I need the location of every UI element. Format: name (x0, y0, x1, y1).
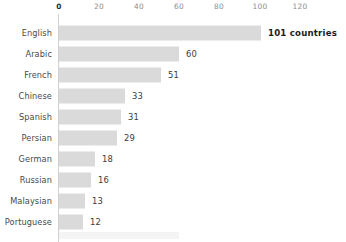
table-row: French 51 (0, 64, 346, 85)
category-label-portuguese: Portuguese (5, 217, 52, 227)
category-label-french: French (24, 70, 52, 80)
bar-persian (59, 130, 117, 145)
table-row: Malaysian 13 (0, 190, 346, 211)
bar-french (59, 67, 161, 82)
bar-russian (59, 172, 91, 187)
value-label-russian: 16 (98, 175, 109, 185)
value-label-portuguese: 12 (90, 217, 101, 227)
value-label-english: 101 countries (268, 28, 337, 38)
category-label-russian: Russian (20, 175, 52, 185)
bar-spanish (59, 109, 121, 124)
category-label-persian: Persian (22, 133, 53, 143)
category-label-spanish: Spanish (19, 112, 52, 122)
table-row: Arabic 60 (0, 43, 346, 64)
value-label-malaysian: 13 (92, 196, 103, 206)
value-label-spanish: 31 (128, 112, 139, 122)
category-label-english: English (22, 28, 52, 38)
category-label-malaysian: Malaysian (10, 196, 52, 206)
value-label-chinese: 33 (132, 91, 143, 101)
bar-english (59, 25, 261, 40)
table-row: Persian 29 (0, 127, 346, 148)
value-label-german: 18 (102, 154, 113, 164)
table-row: German 18 (0, 148, 346, 169)
table-row: Chinese 33 (0, 85, 346, 106)
category-label-german: German (19, 154, 52, 164)
value-label-arabic: 60 (186, 49, 197, 59)
table-row: Portuguese 12 (0, 211, 346, 232)
table-row: English 101 countries (0, 22, 346, 43)
category-label-arabic: Arabic (25, 49, 52, 59)
bar-malaysian (59, 193, 85, 208)
bar-chinese (59, 88, 125, 103)
horizontal-bar-chart: 0 20 40 60 80 100 120 English 101 countr… (0, 0, 346, 242)
bar-rows: English 101 countries Arabic 60 French 5… (0, 0, 346, 242)
value-label-persian: 29 (124, 133, 135, 143)
bottom-edge-remnant (59, 232, 179, 239)
bar-arabic (59, 46, 179, 61)
category-label-chinese: Chinese (19, 91, 52, 101)
table-row: Spanish 31 (0, 106, 346, 127)
value-label-french: 51 (168, 70, 179, 80)
bar-german (59, 151, 95, 166)
bar-portuguese (59, 214, 83, 229)
table-row: Russian 16 (0, 169, 346, 190)
